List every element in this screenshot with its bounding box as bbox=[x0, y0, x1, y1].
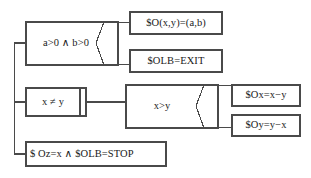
node-assign-olb-exit-box bbox=[130, 50, 222, 72]
node-cond-ab-box bbox=[26, 22, 118, 65]
node-assign-ox-box bbox=[232, 85, 300, 106]
node-assign-oz-stop-box bbox=[26, 142, 166, 166]
node-assign-oxy-box bbox=[130, 12, 222, 34]
node-cond-xgty-box bbox=[126, 85, 218, 128]
node-assign-oy-box bbox=[232, 115, 300, 136]
node-loop-xney-iteration-bar bbox=[80, 88, 86, 116]
flowchart-diagram: a>0 ∧ b>0 $O(x,y)=(a,b) $OLB=EXIT x ≠ y … bbox=[0, 0, 311, 178]
diagram-canvas bbox=[0, 0, 311, 178]
node-loop-xney-box bbox=[26, 88, 80, 116]
